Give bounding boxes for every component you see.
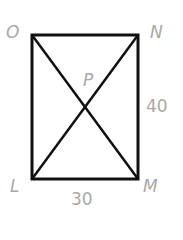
vertex-label-n: N (150, 24, 163, 41)
side-length-nm: 40 (146, 98, 168, 115)
intersection-label-p: P (83, 72, 93, 89)
vertex-label-l: L (10, 178, 19, 195)
side-length-lm: 30 (71, 191, 93, 208)
vertex-label-m: M (143, 178, 158, 195)
vertex-label-o: O (6, 24, 19, 41)
